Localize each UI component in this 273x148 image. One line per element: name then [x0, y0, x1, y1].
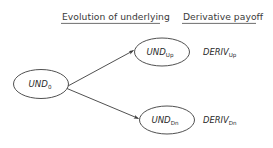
node-root[interactable]: UND0 [14, 70, 69, 99]
node-up-subscript: Up [166, 52, 174, 59]
payoff-up-group: DERIVUp [203, 47, 237, 59]
node-down-base: UND [151, 115, 171, 125]
header-right-group: Derivative payoff [182, 11, 264, 23]
node-down[interactable]: UNDDn [140, 106, 195, 134]
node-up-base: UND [147, 47, 167, 57]
payoff-down-label: DERIVDn [203, 115, 237, 126]
header-left-label: Evolution of underlying [62, 11, 170, 22]
edge-root-to-down [67, 89, 139, 119]
header-right-label: Derivative payoff [183, 11, 264, 22]
node-root-subscript: 0 [48, 84, 52, 90]
payoff-down-base: DERIV [203, 115, 230, 125]
binomial-tree-diagram: Evolution of underlying Derivative payof… [0, 0, 273, 148]
payoff-up-subscript: Up [229, 52, 237, 59]
node-root-base: UND [29, 79, 49, 89]
payoff-up-label: DERIVUp [203, 47, 237, 59]
payoff-down-group: DERIVDn [203, 115, 237, 126]
diagram-canvas: Evolution of underlying Derivative payof… [0, 0, 273, 148]
node-down-subscript: Dn [171, 120, 179, 126]
edges-group [67, 51, 139, 119]
payoff-up-base: DERIV [203, 47, 230, 57]
payoff-down-subscript: Dn [229, 120, 237, 126]
node-up[interactable]: UNDUp [135, 38, 190, 66]
edge-root-to-up [67, 51, 134, 87]
header-left-group: Evolution of underlying [61, 11, 170, 23]
